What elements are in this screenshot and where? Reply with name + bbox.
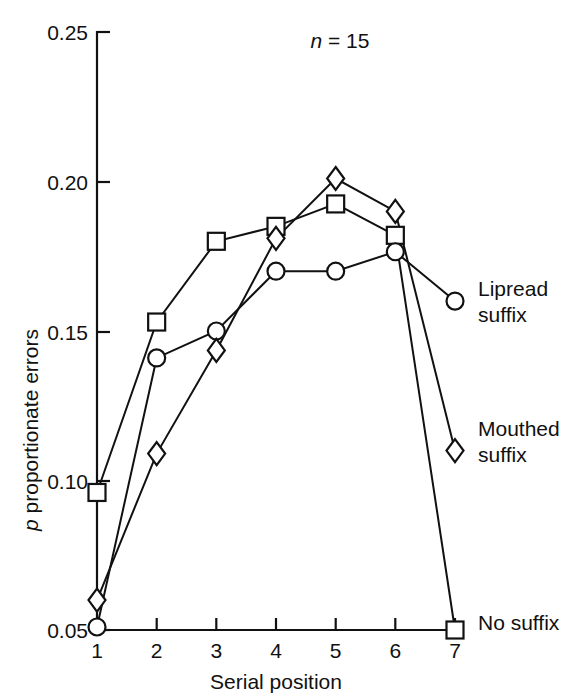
x-axis-ticks [97, 618, 455, 630]
data-point-circle-1 [89, 619, 106, 636]
sample-size-rest: = 15 [322, 29, 369, 52]
data-point-diamond-5 [327, 167, 344, 190]
y-tick-label-3: 0.10 [47, 470, 88, 493]
legend-label-diamond: Mouthed [478, 417, 560, 440]
y-axis-title-rest: proportionate errors [19, 329, 42, 519]
sample-size-italic: n [311, 29, 323, 52]
y-axis-title: p proportionate errors [19, 329, 42, 532]
svg-text:p proportionate errors: p proportionate errors [19, 329, 42, 532]
data-point-square-5 [327, 195, 344, 212]
data-point-circle-3 [208, 323, 225, 340]
data-point-circle-5 [327, 263, 344, 280]
x-tick-label-5: 6 [389, 639, 401, 662]
data-point-circle-2 [148, 349, 165, 366]
x-tick-label-4: 5 [330, 639, 342, 662]
data-point-diamond-1 [89, 589, 106, 612]
data-point-square-2 [148, 314, 165, 331]
chart-page: 0.25 0.20 0.15 0.10 0.05 1 2 3 4 5 6 7 [0, 0, 574, 698]
data-point-diamond-2 [148, 442, 165, 465]
data-point-square-1 [89, 484, 106, 501]
x-tick-label-2: 3 [210, 639, 222, 662]
legend-label-circle-line2: suffix [478, 303, 527, 326]
y-axis-ticks [97, 32, 110, 630]
series-markers-group [89, 167, 464, 638]
data-point-square-6 [387, 227, 404, 244]
data-point-square-7 [447, 622, 464, 639]
legend-group: No suffixLipreadsuffixMouthedsuffix [478, 277, 560, 634]
data-point-circle-6 [387, 243, 404, 260]
data-point-diamond-7 [447, 439, 464, 462]
x-tick-label-3: 4 [270, 639, 282, 662]
y-tick-label-1: 0.20 [47, 171, 88, 194]
sample-size-annotation: n = 15 [311, 29, 370, 52]
y-axis-tick-labels: 0.25 0.20 0.15 0.10 0.05 [47, 21, 88, 642]
x-tick-label-0: 1 [91, 639, 103, 662]
data-point-diamond-3 [208, 339, 225, 362]
legend-label-diamond-line2: suffix [478, 443, 527, 466]
legend-label-square: No suffix [478, 611, 560, 634]
line-chart: 0.25 0.20 0.15 0.10 0.05 1 2 3 4 5 6 7 [0, 0, 574, 698]
y-tick-label-2: 0.15 [47, 321, 88, 344]
x-axis-title: Serial position [210, 670, 342, 693]
y-axis-title-italic: p [19, 519, 42, 532]
legend-label-circle: Lipread [478, 277, 548, 300]
data-point-diamond-6 [387, 200, 404, 223]
data-point-square-3 [208, 233, 225, 250]
x-tick-label-1: 2 [151, 639, 163, 662]
y-tick-label-4: 0.05 [47, 619, 88, 642]
x-tick-label-6: 7 [449, 639, 461, 662]
x-axis-tick-labels: 1 2 3 4 5 6 7 [91, 639, 461, 662]
y-tick-label-0: 0.25 [47, 21, 88, 44]
series-line-circle [97, 252, 455, 627]
data-point-circle-4 [268, 263, 285, 280]
data-point-circle-7 [447, 293, 464, 310]
